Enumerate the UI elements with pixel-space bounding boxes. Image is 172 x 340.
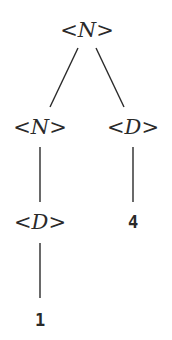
open-bracket: <: [14, 210, 32, 234]
open-bracket: <: [13, 115, 31, 139]
open-bracket: <: [107, 115, 125, 139]
node-symbol: N: [78, 18, 96, 42]
edge-root-to-right-d: [96, 48, 124, 107]
tree-edges: [0, 0, 172, 340]
leaf-4: 4: [128, 214, 138, 231]
node-symbol: D: [125, 115, 142, 139]
node-root-n: <N>: [60, 20, 114, 41]
edge-root-to-left-n: [50, 48, 78, 107]
open-bracket: <: [60, 18, 78, 42]
leaf-1: 1: [35, 312, 45, 329]
close-bracket: >: [96, 18, 114, 42]
node-symbol: N: [31, 115, 49, 139]
parse-tree: <N> <N> <D> <D> 4 1: [0, 0, 172, 340]
node-inner-d: <D>: [14, 212, 66, 233]
node-left-n: <N>: [13, 117, 67, 138]
close-bracket: >: [141, 115, 159, 139]
node-symbol: D: [32, 210, 49, 234]
close-bracket: >: [49, 115, 67, 139]
close-bracket: >: [48, 210, 66, 234]
node-right-d: <D>: [107, 117, 159, 138]
